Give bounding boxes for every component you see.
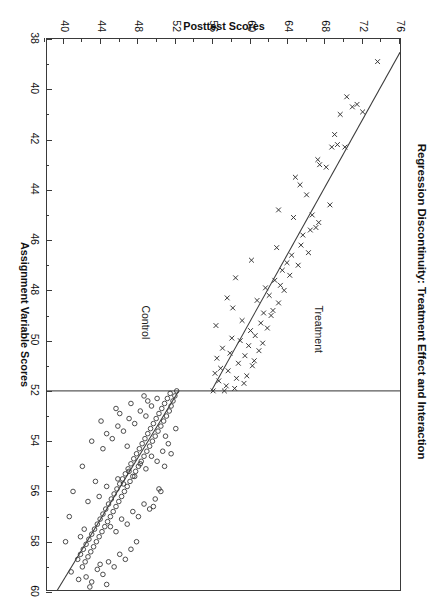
data-point-o (132, 421, 137, 426)
data-point-o (121, 429, 126, 434)
x-axis-title: Assignment Variable Scores (19, 38, 31, 591)
data-point-o (93, 479, 98, 484)
data-point-o (122, 489, 127, 494)
data-point-o (150, 439, 155, 444)
y-tick (137, 38, 138, 44)
data-point-o (143, 436, 148, 441)
data-point-o (173, 426, 178, 431)
data-point-o (82, 527, 87, 532)
scatter-layer (47, 39, 400, 590)
rotated-figure-wrapper: Regression Discontinuity: Treatment Effe… (0, 0, 431, 603)
x-tick (46, 592, 52, 593)
data-point-o (117, 552, 122, 557)
data-point-o (148, 426, 153, 431)
data-point-o (67, 514, 72, 519)
data-point-o (134, 451, 139, 456)
data-point-o (112, 565, 117, 570)
y-tick (324, 38, 325, 44)
y-tick-minor (380, 38, 381, 42)
data-point-o (149, 454, 154, 459)
y-tick-minor (156, 38, 157, 42)
y-tick (63, 38, 64, 44)
data-point-o (169, 451, 174, 456)
data-point-o (106, 560, 111, 565)
x-tick (46, 391, 52, 392)
y-tick (175, 38, 176, 44)
data-point-o (117, 499, 122, 504)
x-tick-minor (46, 567, 50, 568)
data-point-o (125, 522, 130, 527)
y-tick-minor (399, 38, 400, 42)
data-point-o (149, 404, 154, 409)
x-tick-minor (46, 366, 50, 367)
data-point-o (110, 436, 115, 441)
data-point-o (86, 555, 91, 560)
data-point-o (145, 399, 150, 404)
data-point-o (104, 582, 109, 587)
x-tick-minor (46, 114, 50, 115)
data-point-o (156, 429, 161, 434)
data-point-o (157, 411, 162, 416)
data-point-o (147, 444, 152, 449)
data-point-o (163, 434, 168, 439)
data-point-o (91, 544, 96, 549)
data-point-o (83, 560, 88, 565)
data-point-o (142, 502, 147, 507)
y-tick-label: 68 (320, 0, 332, 32)
y-tick-label: 40 (59, 0, 71, 32)
data-point-o (108, 524, 113, 529)
data-point-o (89, 580, 94, 585)
data-point-o (137, 446, 142, 451)
data-point-o (160, 449, 165, 454)
y-tick (250, 38, 251, 44)
x-tick-minor (46, 517, 50, 518)
x-tick (46, 542, 52, 543)
data-point-o (104, 431, 109, 436)
x-tick-minor (46, 64, 50, 65)
data-point-o (114, 529, 119, 534)
data-point-o (125, 444, 130, 449)
data-point-o (162, 401, 167, 406)
data-point-o (80, 464, 85, 469)
regression-line-treatment (211, 39, 400, 391)
data-point-o (97, 494, 102, 499)
data-point-o (166, 441, 171, 446)
data-point-o (76, 577, 81, 582)
x-tick-minor (46, 466, 50, 467)
data-point-o (94, 539, 99, 544)
data-point-o (153, 497, 158, 502)
data-point-o (99, 419, 104, 424)
data-point-o (155, 396, 160, 401)
y-tick-minor (343, 38, 344, 42)
data-point-o (114, 406, 119, 411)
x-tick (46, 140, 52, 141)
data-point-o (168, 391, 173, 396)
data-point-o (78, 534, 83, 539)
y-tick-minor (268, 38, 269, 42)
data-point-o (88, 585, 93, 590)
y-tick-label: 48 (133, 0, 145, 32)
data-point-o (100, 529, 105, 534)
data-point-o (162, 464, 167, 469)
data-point-o (142, 394, 147, 399)
plot-frame: TreatmentControl (46, 38, 401, 591)
data-point-o (133, 469, 138, 474)
data-point-o (134, 539, 139, 544)
y-tick (212, 38, 213, 44)
data-point-o (131, 456, 136, 461)
x-tick-minor (46, 265, 50, 266)
x-tick (46, 39, 52, 40)
page-title: Regression Discontinuity: Treatment Effe… (416, 0, 428, 603)
y-tick-minor (81, 38, 82, 42)
data-point-o (136, 514, 141, 519)
y-tick-minor (193, 38, 194, 42)
data-point-o (88, 549, 93, 554)
data-point-o (145, 431, 150, 436)
data-point-o (63, 539, 68, 544)
x-tick-minor (46, 165, 50, 166)
x-tick-minor (46, 416, 50, 417)
data-point-o (127, 416, 132, 421)
data-point-o (154, 416, 159, 421)
x-tick (46, 240, 52, 241)
data-point-o (131, 509, 136, 514)
